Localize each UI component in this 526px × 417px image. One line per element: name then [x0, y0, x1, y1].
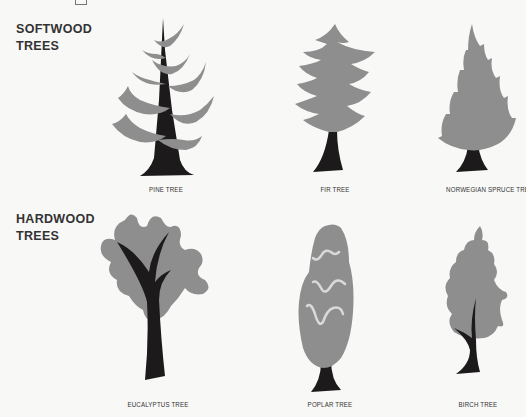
spruce-tree-icon	[432, 20, 522, 175]
hardwood-section-title: HARDWOOD TREES	[16, 211, 95, 245]
softwood-section-title: SOFTWOOD TREES	[16, 21, 92, 55]
eucalyptus-tree-icon	[95, 210, 220, 390]
poplar-tree-label: POPLAR TREE	[297, 400, 363, 409]
fir-tree	[285, 20, 385, 175]
softwood-title-line2: TREES	[16, 38, 92, 55]
pine-tree-icon	[110, 10, 220, 185]
birch-tree-label: BIRCH TREE	[445, 400, 511, 409]
pine-tree	[110, 10, 220, 185]
norwegian-spruce-tree	[432, 20, 522, 175]
pine-tree-label: PINE TREE	[133, 185, 199, 194]
norwegian-spruce-tree-label: NORWEGIAN SPRUCE TREE	[446, 185, 520, 194]
poplar-tree	[295, 222, 365, 394]
poplar-tree-icon	[295, 222, 365, 394]
hardwood-title-line2: TREES	[16, 228, 95, 245]
fir-tree-label: FIR TREE	[302, 185, 368, 194]
eucalyptus-tree-label: EUCALYPTUS TREE	[125, 400, 191, 409]
softwood-title-line1: SOFTWOOD	[16, 21, 92, 38]
birch-tree	[436, 224, 516, 384]
hardwood-title-line1: HARDWOOD	[16, 211, 95, 228]
eucalyptus-tree	[95, 210, 220, 390]
birch-tree-icon	[436, 224, 516, 384]
top-crop-mark	[75, 0, 87, 5]
fir-tree-icon	[285, 20, 385, 175]
